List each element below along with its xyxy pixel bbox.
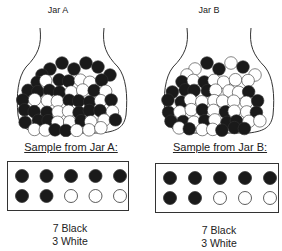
jar-a-marbles — [16, 57, 121, 137]
black-marble — [189, 172, 202, 185]
sample-a-black-count: 7 Black — [40, 222, 100, 235]
sample-b-counts: 7 Black 3 White — [189, 224, 249, 250]
white-marble — [214, 192, 227, 205]
black-marble — [16, 170, 29, 183]
sample-b-white-count: 3 White — [189, 237, 249, 250]
black-marble — [40, 190, 53, 203]
sample-a-box — [7, 161, 129, 211]
sample-a-marbles — [8, 162, 130, 212]
black-marble — [214, 172, 227, 185]
black-marble — [264, 172, 277, 185]
black-marble — [189, 192, 202, 205]
sample-b-black-count: 7 Black — [189, 224, 249, 237]
sample-b-marbles — [156, 164, 280, 214]
sample-b-title: Sample from Jar B: — [160, 141, 280, 153]
jar-a-title: Jar A — [28, 5, 88, 15]
black-marble — [40, 170, 53, 183]
white-marble — [264, 192, 277, 205]
sample-a-white-count: 3 White — [40, 235, 100, 248]
black-marble — [89, 170, 102, 183]
black-marble — [164, 192, 177, 205]
black-marble — [164, 172, 177, 185]
white-marble — [65, 190, 78, 203]
white-marble — [239, 192, 252, 205]
sample-a-title: Sample from Jar A: — [11, 141, 131, 153]
black-marble — [16, 190, 29, 203]
sample-b-box — [155, 163, 279, 213]
black-marble — [65, 170, 78, 183]
sample-a-counts: 7 Black 3 White — [40, 222, 100, 248]
black-marble — [239, 172, 252, 185]
white-marble — [89, 190, 102, 203]
white-marble — [114, 190, 127, 203]
jar-a-illustration — [12, 25, 132, 137]
jar-b-title: Jar B — [179, 5, 239, 15]
black-marble — [114, 170, 127, 183]
jar-b-marbles — [162, 57, 267, 137]
jar-b-illustration — [157, 25, 277, 137]
